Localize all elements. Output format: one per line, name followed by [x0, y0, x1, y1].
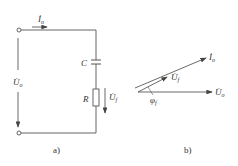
phasor-diagram: İo U̇f U̇o φf b) — [135, 52, 225, 155]
angle-label: φf — [150, 95, 158, 106]
angle-leader — [148, 87, 153, 95]
top-terminal — [17, 28, 21, 32]
input-voltage-label: U̇o — [13, 77, 23, 88]
diagram-canvas: İo U̇o C R U̇f a) İo U̇f U̇o φf b) — [0, 0, 238, 166]
feedback-phasor-label: U̇f — [171, 72, 181, 83]
current-label: İo — [37, 14, 44, 25]
resistor-label: R — [82, 94, 89, 104]
caption-b: b) — [184, 145, 192, 155]
circuit-diagram: İo U̇o C R U̇f a) — [13, 14, 119, 155]
resistor — [93, 89, 99, 106]
bottom-terminal — [17, 131, 21, 135]
output-voltage-label: U̇f — [109, 92, 119, 103]
capacitor-label: C — [81, 58, 88, 68]
input-phasor-label: U̇o — [215, 87, 225, 98]
caption-a: a) — [53, 145, 60, 155]
current-phasor-label: İo — [208, 52, 215, 63]
